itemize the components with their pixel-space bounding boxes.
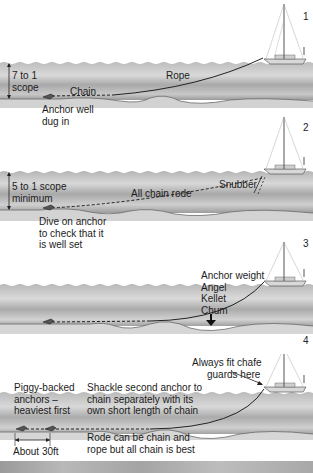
sailboat-icon xyxy=(264,354,306,392)
scope-label: 7 to 1 scope xyxy=(12,70,39,93)
chain-label: Chain xyxy=(70,86,96,98)
chafe-note: Always fit chafe guards here xyxy=(192,357,261,380)
sailboat-icon xyxy=(264,242,306,286)
panel-number: 2 xyxy=(303,122,309,133)
snubber-label: Snubber xyxy=(219,179,257,191)
panel-1-scene xyxy=(0,0,313,120)
piggy-note: Piggy-backed anchors – heaviest first xyxy=(14,382,75,417)
panel-2-all-chain-rode: 2 5 to 1 scope minimum All chain rode Sn… xyxy=(0,117,313,242)
panel-number: 3 xyxy=(303,238,309,249)
shackle-note: Shackle second anchor to chain separatel… xyxy=(87,382,202,417)
panel-number: 1 xyxy=(303,11,309,22)
panel-3-scene xyxy=(0,242,313,354)
panel-4-piggyback-anchors: 4 Always fit chafe guards here Piggy-bac… xyxy=(0,354,313,461)
water xyxy=(0,62,313,100)
distance-label: About 30ft xyxy=(13,446,59,458)
rode-label: All chain rode xyxy=(131,188,192,200)
rode-note: Rode can be chain and rope but all chain… xyxy=(87,432,195,455)
sailboat-icon xyxy=(264,117,306,174)
rope-label: Rope xyxy=(166,70,190,82)
panel-3-anchor-weight: 3 Anchor weight Angel Kellet Chum xyxy=(0,242,313,354)
bottom-border-strip xyxy=(0,461,313,473)
panel-number: 4 xyxy=(303,335,309,346)
sailboat-icon xyxy=(264,4,306,64)
weight-names: Anchor weight Angel Kellet Chum xyxy=(201,270,264,316)
scope-label: 5 to 1 scope minimum xyxy=(12,181,66,204)
panel-1-seven-to-one-scope: 1 7 to 1 scope Chain Rope Anchor well du… xyxy=(0,0,313,120)
